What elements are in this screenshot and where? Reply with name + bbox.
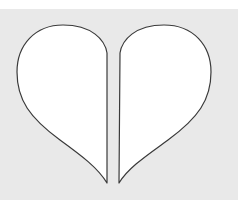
split-heart-illustration bbox=[0, 0, 238, 200]
left-heart-half bbox=[17, 25, 107, 183]
right-heart-half bbox=[119, 25, 211, 183]
